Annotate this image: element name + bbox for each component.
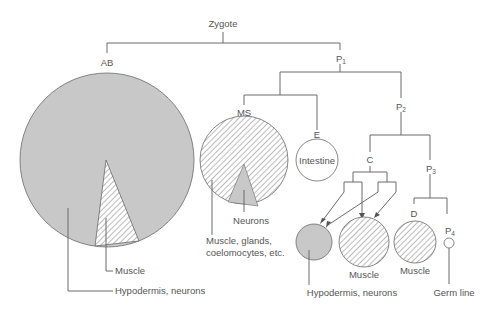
arrow-icon bbox=[320, 218, 326, 224]
label-d-muscle: Muscle bbox=[400, 265, 430, 276]
label-c-muscle: Muscle bbox=[349, 269, 379, 280]
lineage-diagram: Zygote AB P1 MS E P2 C P3 D P4 Muscle Hy… bbox=[0, 0, 480, 314]
label-p4-germline: Germ line bbox=[433, 287, 474, 298]
label-ab: AB bbox=[101, 57, 114, 68]
label-p3: P3 bbox=[426, 163, 436, 175]
label-c-hypodermis: Hypodermis, neurons bbox=[307, 287, 398, 298]
ab-cell bbox=[20, 73, 194, 247]
label-ms-neurons: Neurons bbox=[233, 215, 269, 226]
label-ab-muscle: Muscle bbox=[115, 265, 145, 276]
label-d: D bbox=[411, 208, 418, 219]
d-cell bbox=[394, 221, 436, 263]
label-zygote: Zygote bbox=[208, 18, 237, 29]
label-ms-muscle-1: Muscle, glands, bbox=[206, 235, 272, 246]
label-e: E bbox=[314, 129, 320, 140]
label-p2: P2 bbox=[396, 101, 406, 113]
c-muscle-cell bbox=[339, 217, 389, 267]
label-c: C bbox=[367, 154, 374, 165]
label-ab-hypodermis: Hypodermis, neurons bbox=[115, 285, 206, 296]
p4-cell bbox=[444, 238, 454, 248]
label-e-intestine: Intestine bbox=[299, 155, 335, 166]
arrow-icon bbox=[326, 221, 331, 228]
label-ms: MS bbox=[237, 107, 251, 118]
label-ms-muscle-2: coelomocytes, etc. bbox=[206, 247, 285, 258]
label-p4: P4 bbox=[445, 225, 455, 237]
c-hypodermis-cell bbox=[296, 224, 332, 260]
label-p1: P1 bbox=[336, 53, 346, 65]
arrow-icon bbox=[374, 212, 380, 218]
